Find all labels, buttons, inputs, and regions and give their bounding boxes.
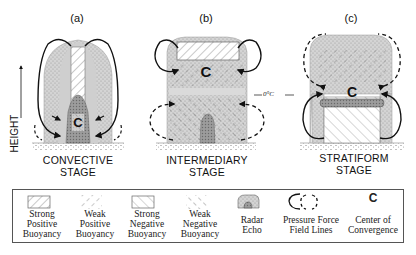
legend-box: Strong Positive Buoyancy Weak Positive B… [12, 189, 404, 243]
radar-echo-layer [320, 99, 384, 107]
stage-label-stratiform: STRATIFORM STAGE [304, 152, 404, 176]
ground-surface [300, 143, 404, 150]
strong-positive-buoyancy-region [177, 42, 239, 60]
center-of-convergence-glyph: C [73, 115, 83, 130]
panel-b-intermediary: C [150, 37, 264, 150]
height-axis-label: HEIGHT [9, 104, 20, 164]
center-of-convergence-glyph: C [347, 84, 357, 100]
stage-label-convective: CONVECTIVE STAGE [28, 154, 128, 178]
ground-surface [156, 143, 256, 150]
panel-label-a: (a) [57, 12, 97, 24]
center-of-convergence-glyph: C [201, 63, 212, 80]
center-of-convergence-icon: C [344, 193, 402, 203]
panel-a-convective: C [32, 39, 124, 150]
ground-surface [32, 143, 124, 150]
panel-label-b: (b) [186, 12, 226, 24]
freezing-level-label: 0°C [263, 90, 274, 98]
stage-label-intermediary: INTERMEDIARY STAGE [157, 154, 257, 178]
panel-label-c: (c) [331, 12, 371, 24]
weak-positive-buoyancy-region [318, 50, 386, 82]
panel-c-stratiform: C [285, 34, 404, 150]
